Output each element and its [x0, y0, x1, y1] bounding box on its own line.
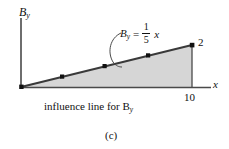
equation-equals-sign: =	[132, 29, 140, 40]
data-point-marker	[103, 64, 107, 68]
y-axis-label: By	[19, 6, 30, 20]
influence-line-figure: By x 2 10 By = 1 5 x influence line for …	[0, 0, 229, 149]
span-value-label: 10	[184, 92, 195, 103]
data-point-marker	[146, 53, 150, 57]
data-point-marker	[190, 43, 195, 48]
data-point-marker	[19, 85, 23, 89]
figure-caption: influence line for By	[44, 101, 133, 114]
equation-lhs-subscript: y	[127, 32, 130, 41]
figure-part-label: (c)	[105, 130, 117, 141]
data-point-marker	[60, 75, 64, 79]
fraction-numerator: 1	[143, 22, 150, 32]
fraction-denominator: 5	[143, 35, 150, 45]
equation-annotation: By = 1 5 x	[120, 23, 159, 46]
figure-caption-subscript: y	[130, 105, 133, 114]
equation-lhs-text: B	[120, 27, 127, 39]
equation-lhs: By	[120, 28, 130, 41]
peak-value-label: 2	[198, 37, 204, 48]
y-axis-label-subscript: y	[26, 11, 30, 20]
figure-canvas	[0, 0, 229, 149]
figure-caption-text: influence line for B	[44, 100, 130, 112]
equation-fraction: 1 5	[142, 22, 150, 45]
equation-variable: x	[154, 29, 159, 40]
x-axis-label: x	[213, 79, 218, 90]
